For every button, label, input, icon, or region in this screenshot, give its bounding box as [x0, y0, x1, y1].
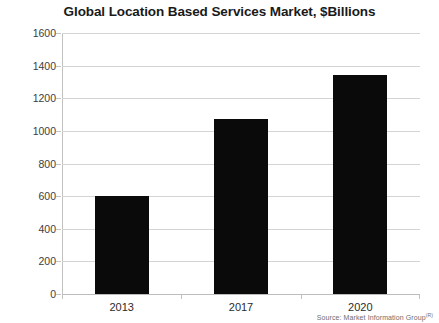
y-axis-tick-label: 200 [10, 255, 56, 267]
y-axis-tick-mark [56, 164, 61, 165]
bar-2013 [95, 196, 149, 294]
y-axis-tick-mark [56, 131, 61, 132]
gridline [62, 33, 420, 34]
y-axis-tick-label: 800 [10, 158, 56, 170]
plot-area [62, 33, 420, 294]
y-axis-tick-mark [56, 294, 61, 295]
x-axis-tick-marks [62, 295, 420, 300]
y-axis-tick-label: 600 [10, 190, 56, 202]
y-axis-tick-label: 1400 [10, 60, 56, 72]
x-axis-tick-mark [301, 295, 302, 299]
y-axis-tick-label: 1600 [10, 27, 56, 39]
bar-2017 [214, 119, 268, 294]
y-axis-tick-mark [56, 33, 61, 34]
y-axis-tick-labels: 02004006008001000120014001600 [6, 33, 56, 294]
y-axis-tick-mark [56, 261, 61, 262]
source-superscript: (R) [426, 312, 433, 318]
y-axis-tick-mark [56, 66, 61, 67]
x-axis-tick-mark [419, 295, 420, 299]
y-axis-tick-mark [56, 196, 61, 197]
bar-chart-figure: Global Location Based Services Market, $… [0, 0, 439, 323]
x-axis-tick-mark [181, 295, 182, 299]
chart-title: Global Location Based Services Market, $… [0, 4, 439, 19]
x-axis-tick-mark [62, 295, 63, 299]
gridline [62, 66, 420, 67]
y-axis-tick-label: 0 [10, 288, 56, 300]
y-axis-tick-label: 400 [10, 223, 56, 235]
y-axis-tick-label: 1000 [10, 125, 56, 137]
y-axis-tick-label: 1200 [10, 92, 56, 104]
x-axis-tick-label-2017: 2017 [229, 301, 253, 313]
bar-2020 [333, 75, 387, 294]
y-axis-tick-mark [56, 98, 61, 99]
y-axis-tick-mark [56, 229, 61, 230]
x-axis-tick-label-2013: 2013 [109, 301, 133, 313]
source-attribution: Source: Market Information Group(R) [317, 312, 433, 321]
